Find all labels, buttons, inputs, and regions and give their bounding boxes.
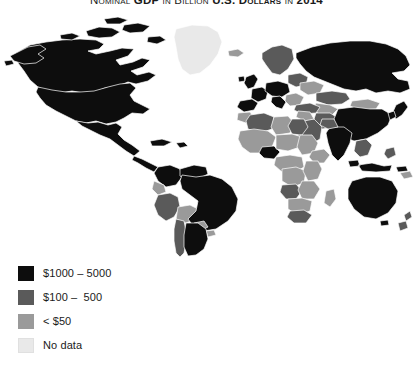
legend-swatch-high-icon: [18, 266, 34, 281]
legend-label-mid: $100 – 500: [43, 291, 102, 303]
world-gdp-choropleth-page: Nominal GDP in Billion U.S. Dollars in 2…: [0, 0, 413, 375]
page-title-part-5: in: [285, 0, 297, 6]
page-title-part-2: GDP: [134, 0, 163, 6]
page-title-part-4: U.S. Dollars: [212, 0, 285, 6]
legend-item-high[interactable]: $1000 – 5000: [18, 261, 218, 285]
legend-item-nodata[interactable]: No data: [18, 333, 218, 357]
legend-label-low: < $50: [43, 315, 71, 327]
gdp-legend: $1000 – 5000 $100 – 500 < $50 No data: [18, 261, 218, 357]
page-title: Nominal GDP in Billion U.S. Dollars in 2…: [0, 0, 413, 6]
world-map-svg: [0, 9, 413, 257]
page-title-part-1: Nominal: [90, 0, 134, 6]
world-map: [0, 9, 413, 257]
legend-item-mid[interactable]: $100 – 500: [18, 285, 218, 309]
legend-swatch-mid-icon: [18, 290, 34, 305]
legend-label-nodata: No data: [43, 339, 82, 351]
page-title-part-6: 2014: [297, 0, 323, 6]
legend-label-high: $1000 – 5000: [43, 267, 112, 279]
page-title-part-3: in Billion: [163, 0, 213, 6]
page-title-clip: Nominal GDP in Billion U.S. Dollars in 2…: [0, 0, 413, 9]
legend-swatch-low-icon: [18, 314, 34, 329]
legend-swatch-nodata-icon: [18, 338, 34, 353]
legend-item-low[interactable]: < $50: [18, 309, 218, 333]
region-tasmania: [380, 220, 389, 226]
